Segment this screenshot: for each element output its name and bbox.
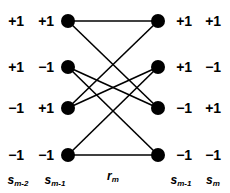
trellis-node-right [151,60,165,74]
axis-label-left-outer: sm-2 [8,174,29,186]
trellis-node-left [61,14,75,28]
trellis-node-right [151,148,165,162]
state-label-left-inner: −1 [38,60,54,74]
state-label-left-outer: +1 [8,14,24,28]
state-label-right-outer: −1 [205,60,221,74]
state-label-right-inner: +1 [176,14,192,28]
trellis-node-right [151,14,165,28]
trellis-diagram: +1+1−1−1+1−1+1−1+1+1−1−1+1−1+1−1sm-2sm-1… [0,0,230,193]
state-label-left-inner: +1 [38,101,54,115]
trellis-node-right [151,101,165,115]
axis-label-right-outer: sm [206,174,220,186]
trellis-graph [0,0,230,193]
edge-layer [68,21,158,155]
state-label-left-inner: −1 [38,148,54,162]
state-label-right-inner: −1 [176,148,192,162]
state-label-left-inner: +1 [38,14,54,28]
state-label-right-inner: +1 [176,60,192,74]
state-label-left-outer: −1 [8,148,24,162]
state-label-right-inner: −1 [176,101,192,115]
state-label-right-outer: +1 [205,101,221,115]
trellis-node-left [61,101,75,115]
state-label-left-outer: +1 [8,60,24,74]
trellis-node-left [61,60,75,74]
trellis-node-left [61,148,75,162]
axis-label-right-inner: sm-1 [171,174,192,186]
state-label-left-outer: −1 [8,101,24,115]
state-label-right-outer: +1 [205,14,221,28]
axis-label-left-inner: sm-1 [45,174,66,186]
axis-label-center: rm [107,170,119,182]
state-label-right-outer: −1 [205,148,221,162]
